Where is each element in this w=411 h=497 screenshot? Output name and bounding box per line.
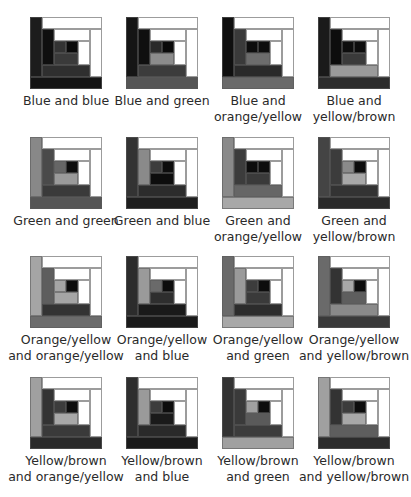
block-piece-c2 — [162, 161, 174, 173]
block-piece-b2 — [138, 65, 186, 77]
block-piece-b2 — [330, 304, 378, 316]
block-label-line1: Green and — [294, 213, 411, 229]
block-piece-c3 — [246, 413, 270, 425]
block-label-line2: and yellow/brown — [294, 348, 411, 364]
block-piece-c2 — [66, 401, 78, 413]
block-piece-c1 — [54, 41, 66, 53]
block-piece-l2 — [138, 149, 150, 185]
block-piece-c3 — [54, 413, 78, 425]
block-piece-c1 — [342, 280, 354, 292]
block-piece-c1 — [54, 401, 66, 413]
block-piece-c2 — [162, 41, 174, 53]
block-piece-t1 — [42, 256, 102, 268]
block-piece-l2 — [42, 149, 54, 185]
block-piece-b2 — [42, 304, 90, 316]
block-piece-c3 — [246, 173, 270, 185]
block-piece-r2 — [78, 41, 90, 65]
block-piece-c3 — [150, 413, 174, 425]
block-piece-r2 — [270, 401, 282, 425]
block-piece-c2 — [66, 41, 78, 53]
block-piece-b1 — [126, 437, 198, 449]
block-piece-t1 — [234, 17, 294, 29]
block-piece-r2 — [78, 161, 90, 185]
block-label: Yellow/brownand yellow/brown — [294, 453, 411, 485]
block-piece-c3 — [246, 53, 270, 65]
log-cabin-block — [318, 256, 390, 328]
block-piece-r2 — [270, 280, 282, 304]
block-piece-b2 — [42, 65, 90, 77]
block-piece-b1 — [222, 197, 294, 209]
block-piece-c3 — [342, 53, 366, 65]
block-piece-t2 — [342, 389, 378, 401]
block-piece-c3 — [54, 173, 78, 185]
block-piece-l1 — [30, 137, 42, 197]
block-piece-c3 — [150, 53, 174, 65]
log-cabin-block — [126, 17, 198, 89]
block-piece-l2 — [330, 29, 342, 65]
block-piece-t2 — [246, 389, 282, 401]
block-piece-c1 — [150, 280, 162, 292]
block-piece-l2 — [234, 389, 246, 425]
block-piece-l1 — [30, 17, 42, 77]
block-label-line2: yellow/brown — [294, 229, 411, 245]
block-piece-c1 — [246, 280, 258, 292]
block-piece-c1 — [54, 280, 66, 292]
block-label-line2: and yellow/brown — [294, 469, 411, 485]
block-piece-b2 — [234, 185, 282, 197]
block-piece-t2 — [246, 29, 282, 41]
block-piece-l2 — [234, 149, 246, 185]
block-piece-t2 — [150, 29, 186, 41]
block-piece-r2 — [174, 401, 186, 425]
block-piece-l1 — [318, 137, 330, 197]
block-piece-t2 — [150, 268, 186, 280]
block-piece-r1 — [378, 268, 390, 316]
block-piece-c3 — [150, 292, 174, 304]
block-piece-r2 — [366, 161, 378, 185]
block-piece-c3 — [54, 292, 78, 304]
block-piece-t2 — [54, 149, 90, 161]
block-piece-l2 — [330, 389, 342, 425]
block-piece-b1 — [222, 77, 294, 89]
block-piece-t1 — [234, 377, 294, 389]
block-piece-c3 — [54, 53, 78, 65]
block-piece-r2 — [78, 401, 90, 425]
log-cabin-block — [222, 17, 294, 89]
block-piece-c2 — [258, 41, 270, 53]
block-label: Orange/yellowand yellow/brown — [294, 332, 411, 364]
block-piece-l1 — [126, 17, 138, 77]
block-piece-t1 — [138, 137, 198, 149]
block-piece-t1 — [42, 377, 102, 389]
block-piece-l1 — [30, 377, 42, 437]
block-piece-t1 — [138, 377, 198, 389]
block-piece-c1 — [342, 401, 354, 413]
block-piece-t2 — [54, 29, 90, 41]
block-label-line1: Orange/yellow — [294, 332, 411, 348]
log-cabin-block — [30, 17, 102, 89]
log-cabin-block — [222, 377, 294, 449]
block-piece-b1 — [30, 316, 102, 328]
block-piece-l1 — [318, 377, 330, 437]
block-piece-t1 — [330, 17, 390, 29]
log-cabin-block — [318, 377, 390, 449]
log-cabin-block — [318, 17, 390, 89]
log-cabin-block — [30, 256, 102, 328]
block-piece-l2 — [42, 389, 54, 425]
block-piece-l2 — [330, 149, 342, 185]
block-label-line1: Yellow/brown — [294, 453, 411, 469]
log-cabin-block — [126, 137, 198, 209]
block-piece-l2 — [234, 29, 246, 65]
block-piece-r2 — [174, 161, 186, 185]
block-piece-c2 — [258, 401, 270, 413]
block-piece-b2 — [42, 185, 90, 197]
block-piece-l1 — [222, 137, 234, 197]
block-piece-l2 — [138, 389, 150, 425]
block-piece-c3 — [246, 292, 270, 304]
block-piece-l1 — [222, 17, 234, 77]
log-cabin-block — [222, 137, 294, 209]
block-piece-l2 — [138, 268, 150, 304]
block-piece-b2 — [42, 425, 90, 437]
block-piece-c1 — [150, 161, 162, 173]
block-piece-c3 — [342, 413, 366, 425]
block-piece-t1 — [42, 17, 102, 29]
block-piece-c2 — [354, 280, 366, 292]
